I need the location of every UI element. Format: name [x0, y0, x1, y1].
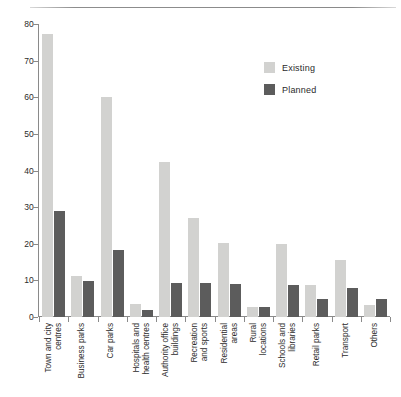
plot-area [38, 24, 390, 317]
bar-group [127, 24, 156, 317]
x-axis-ticks [38, 317, 390, 322]
x-axis-label-cell: Retail parks [302, 323, 331, 397]
x-axis-label: Rurallocations [248, 323, 267, 355]
bar-planned [230, 284, 241, 317]
x-axis-label-cell: Transport [331, 323, 360, 397]
x-axis-tick [302, 317, 303, 322]
bar-planned [54, 211, 65, 317]
y-axis-tick [33, 24, 38, 25]
bar-group [39, 24, 68, 317]
x-axis-tick [127, 317, 128, 322]
x-axis-label-cell: Others [361, 323, 390, 397]
y-axis-tick [33, 134, 38, 135]
bar-planned [317, 299, 328, 317]
x-axis-label-cell: Rurallocations [243, 323, 272, 397]
bar-existing [71, 276, 82, 317]
bar-existing [218, 243, 229, 317]
x-axis-label: Recreationand sports [190, 323, 209, 363]
bar-group [68, 24, 97, 317]
x-axis-label-cell: Town and citycentres [38, 323, 67, 397]
y-axis-tick [33, 244, 38, 245]
y-axis-tick [33, 61, 38, 62]
x-axis-tick [244, 317, 245, 322]
bar-existing [130, 304, 141, 317]
x-axis-label: Hospitals andhealth centres [131, 323, 150, 374]
x-axis-label: Car parks [107, 323, 117, 359]
legend-item-planned: Planned [264, 84, 316, 95]
bar-existing [276, 244, 287, 317]
bar-planned [200, 283, 211, 317]
x-axis-label: Town and citycentres [43, 323, 62, 373]
legend-label-planned: Planned [282, 85, 316, 95]
bar-existing [305, 285, 316, 317]
x-axis-label: Retail parks [312, 323, 322, 366]
bar-planned [347, 288, 358, 317]
x-axis-label-cell: Hospitals andhealth centres [126, 323, 155, 397]
x-axis-label-cell: Recreationand sports [185, 323, 214, 397]
bar-group [98, 24, 127, 317]
x-axis-tick [390, 317, 391, 322]
y-axis-tick [33, 280, 38, 281]
x-axis-tick [68, 317, 69, 322]
bar-group [215, 24, 244, 317]
x-axis-tick [156, 317, 157, 322]
x-axis-label: Business parks [77, 323, 87, 379]
bar-existing [364, 305, 375, 317]
x-axis-label: Residentialareas [219, 323, 238, 364]
bar-groups [39, 24, 390, 317]
bar-existing [42, 34, 53, 317]
bar-planned [113, 250, 124, 317]
bar-existing [159, 162, 170, 317]
bar-planned [142, 310, 153, 317]
y-axis-tick [33, 207, 38, 208]
header-rule [30, 7, 396, 8]
bar-existing [335, 260, 346, 318]
x-axis-label-cell: Authority officebuildings [155, 323, 184, 397]
bar-group [361, 24, 390, 317]
x-axis-label: Transport [341, 323, 351, 358]
bar-existing [101, 97, 112, 317]
legend-label-existing: Existing [282, 63, 315, 73]
x-axis-tick [185, 317, 186, 322]
x-axis-labels: Town and citycentresBusiness parksCar pa… [38, 323, 390, 397]
bar-group [185, 24, 214, 317]
bar-group [332, 24, 361, 317]
legend-swatch-planned [264, 84, 275, 95]
x-axis-tick [332, 317, 333, 322]
x-axis-label-cell: Business parks [67, 323, 96, 397]
x-axis-tick [273, 317, 274, 322]
legend-item-existing: Existing [264, 62, 316, 73]
x-axis-label: Authority officebuildings [160, 323, 179, 377]
x-axis-label-cell: Schools andlibraries [273, 323, 302, 397]
legend: Existing Planned [264, 62, 316, 106]
bar-planned [376, 299, 387, 317]
legend-swatch-existing [264, 62, 275, 73]
y-axis-tick [33, 97, 38, 98]
bar-planned [259, 307, 270, 317]
x-axis-label: Schools andlibraries [278, 323, 297, 368]
x-axis-label: Others [371, 323, 381, 348]
bar-existing [247, 307, 258, 317]
x-axis-tick [215, 317, 216, 322]
bar-planned [171, 283, 182, 317]
x-axis-tick [361, 317, 362, 322]
x-axis-label-cell: Residentialareas [214, 323, 243, 397]
bar-planned [288, 285, 299, 317]
y-axis-tick [33, 171, 38, 172]
bar-existing [188, 218, 199, 317]
bar-planned [83, 281, 94, 317]
y-axis-labels: 01020304050607080 [0, 24, 34, 317]
x-axis-tick [39, 317, 40, 322]
bar-group [156, 24, 185, 317]
x-axis-label-cell: Car parks [97, 323, 126, 397]
bar-chart: 01020304050607080 Town and citycentresBu… [0, 0, 401, 397]
x-axis-tick [98, 317, 99, 322]
